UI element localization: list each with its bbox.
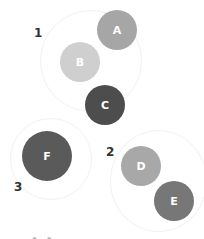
- node-e: E: [154, 181, 194, 221]
- node-f-label: F: [43, 150, 51, 163]
- node-d-label: D: [136, 160, 145, 173]
- group-2-outline: [110, 130, 204, 232]
- node-e-label: E: [170, 195, 178, 208]
- node-f: F: [22, 131, 72, 181]
- caption-cutoff: — • •: [0, 231, 204, 239]
- node-d: D: [121, 146, 161, 186]
- group-label-3: 3: [14, 180, 22, 194]
- group-label-2: 2: [106, 145, 114, 159]
- group-label-1: 1: [34, 26, 42, 40]
- caption-text: — • •: [8, 231, 55, 239]
- node-a-label: A: [113, 24, 122, 37]
- node-b-label: B: [76, 56, 84, 69]
- node-c: C: [85, 85, 125, 125]
- node-b: B: [60, 42, 100, 82]
- node-a: A: [97, 10, 137, 50]
- node-c-label: C: [101, 99, 109, 112]
